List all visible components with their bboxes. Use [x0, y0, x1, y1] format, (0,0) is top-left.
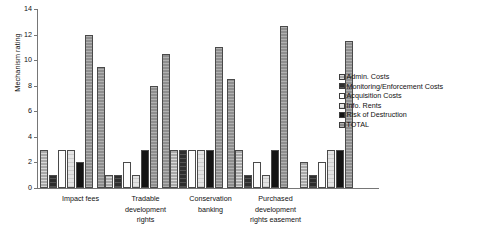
legend-item[interactable]: Admin. Costs: [339, 72, 443, 82]
x-axis-category-line: development: [233, 205, 318, 216]
bar-admin-costs: [300, 162, 308, 188]
bar-info-rents: [197, 150, 205, 188]
bar-acquisition-costs: [123, 162, 131, 188]
bar-acquisition-costs: [188, 150, 196, 188]
legend-swatch-icon: [339, 83, 345, 89]
bar-total-secondary: [162, 54, 170, 188]
plot-area: [38, 9, 379, 188]
y-axis-tick-label: 8: [0, 81, 32, 90]
bar-info-rents: [67, 150, 75, 188]
legend-swatch-icon: [339, 103, 345, 109]
legend-swatch-icon: [339, 93, 345, 99]
legend-swatch-icon: [339, 74, 345, 80]
bar-group: [40, 9, 93, 188]
bar-monitoring-enforcement-costs: [309, 175, 317, 188]
bar-risk-of-destruction: [76, 162, 84, 188]
bar-group: [170, 9, 223, 188]
bar-monitoring-enforcement-costs: [114, 175, 122, 188]
bar-monitoring-enforcement-costs: [49, 175, 57, 188]
x-axis-line: [37, 188, 379, 189]
legend-label: TOTAL: [347, 120, 370, 130]
y-axis-tick-label: 4: [0, 132, 32, 141]
legend-item[interactable]: TOTAL: [339, 120, 443, 130]
y-axis-tick-mark: [34, 188, 37, 189]
y-axis-tick-mark: [34, 9, 37, 10]
bar-chart-figure: Mechanism rating 02468101214 Impact fees…: [0, 0, 477, 239]
bar-acquisition-costs: [58, 150, 66, 188]
legend-label: Acquisition Costs: [347, 91, 402, 101]
y-axis-tick-label: 12: [0, 30, 32, 39]
bar-total: [150, 86, 158, 188]
bar-acquisition-costs: [253, 162, 261, 188]
legend-item[interactable]: Risk of Destruction: [339, 110, 443, 120]
bar-group: [105, 9, 158, 188]
y-axis-tick-mark: [34, 162, 37, 163]
legend-item[interactable]: Acquisition Costs: [339, 91, 443, 101]
y-axis-tick-mark: [34, 86, 37, 87]
chart-legend: Admin. CostsMonitoring/Enforcement Costs…: [339, 72, 443, 130]
y-axis-tick-mark: [34, 111, 37, 112]
bar-total-secondary: [97, 67, 105, 188]
legend-label: Monitoring/Enforcement Costs: [347, 82, 444, 92]
bar-monitoring-enforcement-costs: [179, 150, 187, 188]
legend-label: Info. Rents: [347, 101, 382, 111]
bar-risk-of-destruction: [271, 150, 279, 188]
bar-total: [215, 47, 223, 188]
bar-group: [235, 9, 288, 188]
bar-monitoring-enforcement-costs: [244, 175, 252, 188]
bar-admin-costs: [170, 150, 178, 188]
bar-admin-costs: [235, 150, 243, 188]
legend-swatch-icon: [339, 122, 345, 128]
y-axis-tick-mark: [34, 60, 37, 61]
bar-total-secondary: [227, 79, 235, 188]
bar-admin-costs: [105, 175, 113, 188]
bar-acquisition-costs: [318, 162, 326, 188]
legend-item[interactable]: Info. Rents: [339, 101, 443, 111]
x-axis-category-label: Purchaseddevelopmentrights easement: [233, 194, 318, 226]
legend-label: Admin. Costs: [347, 72, 390, 82]
legend-label: Risk of Destruction: [347, 110, 407, 120]
bar-risk-of-destruction: [141, 150, 149, 188]
bar-admin-costs: [40, 150, 48, 188]
y-axis-tick-label: 0: [0, 183, 32, 192]
bar-risk-of-destruction: [206, 150, 214, 188]
legend-swatch-icon: [339, 112, 345, 118]
bar-risk-of-destruction: [336, 150, 344, 188]
x-axis-category-line: rights easement: [233, 215, 318, 226]
y-axis-tick-label: 10: [0, 55, 32, 64]
y-axis-tick-label: 6: [0, 106, 32, 115]
bar-info-rents: [132, 175, 140, 188]
bar-info-rents: [327, 150, 335, 188]
y-axis-tick-mark: [34, 137, 37, 138]
x-axis-category-line: Purchased: [233, 194, 318, 205]
y-axis-tick-label: 14: [0, 4, 32, 13]
bar-total: [280, 26, 288, 188]
bar-total: [85, 35, 93, 188]
y-axis-tick-mark: [34, 35, 37, 36]
x-axis-category-line: rights: [103, 215, 188, 226]
bar-info-rents: [262, 175, 270, 188]
legend-item[interactable]: Monitoring/Enforcement Costs: [339, 82, 443, 92]
y-axis-tick-label: 2: [0, 157, 32, 166]
